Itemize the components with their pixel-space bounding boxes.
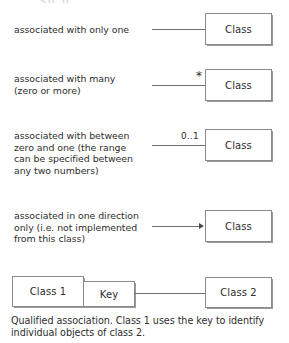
class-box-directed: Class (205, 210, 272, 242)
class-box-many: Class (205, 69, 272, 101)
association-line-qualified (134, 293, 206, 294)
cropped-text-remnant: so g (40, 0, 71, 3)
class-box-class-2: Class 2 (205, 277, 272, 308)
class-box-many-label: Class (225, 80, 252, 91)
figure-caption: Qualified association. Class 1 uses the … (11, 315, 281, 340)
association-line-many (152, 85, 206, 86)
qualifier-box-key: Key (83, 281, 135, 307)
association-line-range (152, 145, 206, 146)
class-box-range: Class (205, 129, 272, 161)
class-box-class-1-label: Class 1 (30, 286, 67, 297)
class-box-directed-label: Class (225, 221, 252, 232)
multiplicity-label-many: * (196, 73, 202, 79)
uml-association-notation-figure: so g associated with only one Class asso… (0, 0, 289, 343)
row-description-range: associated with between zero and one (th… (14, 130, 164, 176)
class-box-range-label: Class (225, 140, 252, 151)
association-line-one (152, 29, 206, 30)
class-box-class-2-label: Class 2 (220, 287, 257, 298)
arrow-head-icon (199, 223, 204, 229)
association-line-directed (152, 226, 200, 227)
row-description-many: associated with many (zero or more) (14, 73, 159, 96)
row-description-directed: associated in one direction only (i.e. n… (14, 210, 174, 245)
class-box-one-label: Class (225, 24, 252, 35)
qualifier-box-key-label: Key (100, 289, 118, 300)
class-box-class-1: Class 1 (12, 276, 84, 307)
class-box-one: Class (205, 13, 272, 45)
multiplicity-label-range: 0..1 (181, 131, 199, 141)
row-description-one: associated with only one (14, 24, 154, 36)
